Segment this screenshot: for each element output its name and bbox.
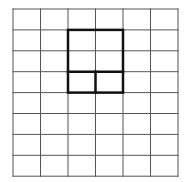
grid-diagram (0, 0, 184, 182)
